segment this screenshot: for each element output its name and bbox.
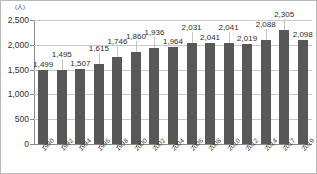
- bar-value-label: 1,499: [33, 60, 53, 69]
- label-leader-line: [136, 41, 137, 52]
- y-axis-tick-label: 2,500: [1, 15, 29, 25]
- label-leader-line: [117, 46, 118, 57]
- bar: [168, 47, 178, 144]
- bar-value-label: 1,964: [163, 37, 183, 46]
- y-axis-line: [34, 20, 35, 145]
- label-leader-line: [154, 37, 155, 48]
- bar: [112, 57, 122, 144]
- y-axis-unit-label: (人): [15, 2, 25, 11]
- y-axis-tick-label: 2,000: [1, 40, 29, 50]
- y-axis-tick-mark: [30, 20, 34, 21]
- bar: [242, 44, 252, 144]
- y-axis-tick-label: 1,500: [1, 65, 29, 75]
- y-axis-tick-mark: [30, 70, 34, 71]
- bar-value-label: 1,495: [52, 50, 72, 59]
- plot-area: 1,4991,4951,5071,6151,7461,8601,9361,964…: [34, 20, 312, 144]
- bar: [261, 40, 271, 144]
- bar: [131, 52, 141, 144]
- bar: [38, 70, 48, 144]
- y-axis-tick-mark: [30, 45, 34, 46]
- bar: [57, 70, 67, 144]
- bar-value-label: 1,746: [107, 37, 127, 46]
- bar-value-label: 2,041: [200, 33, 220, 42]
- label-leader-line: [229, 32, 230, 43]
- bar-value-label: 2,019: [237, 34, 257, 43]
- y-axis-tick-label: 0: [1, 139, 29, 149]
- y-axis-tick-mark: [30, 94, 34, 95]
- bar: [205, 43, 215, 144]
- y-axis-tick-label: 500: [1, 114, 29, 124]
- bar-value-label: 2,305: [274, 10, 294, 19]
- bar: [224, 43, 234, 144]
- bar-value-label: 1,507: [70, 59, 90, 68]
- bar: [298, 40, 308, 144]
- label-leader-line: [99, 53, 100, 64]
- bar: [94, 64, 104, 144]
- bar-value-label: 2,098: [293, 30, 313, 39]
- bar: [75, 69, 85, 144]
- bar-value-label: 1,615: [89, 44, 109, 53]
- bar-value-label: 1,860: [126, 32, 146, 41]
- label-leader-line: [284, 19, 285, 30]
- y-axis-tick-label: 1,000: [1, 89, 29, 99]
- label-leader-line: [62, 59, 63, 70]
- bar: [279, 30, 289, 144]
- y-axis-tick-mark: [30, 144, 34, 145]
- y-axis-tick-mark: [30, 119, 34, 120]
- bar: [187, 43, 197, 144]
- bar-value-label: 2,041: [219, 23, 239, 32]
- bar-value-label: 2,088: [256, 20, 276, 29]
- bar-chart: (人) 1,4991,4951,5071,6151,7461,8601,9361…: [0, 0, 317, 174]
- bar-value-label: 2,031: [182, 23, 202, 32]
- bar-value-label: 1,936: [144, 28, 164, 37]
- bar: [149, 48, 159, 144]
- label-leader-line: [192, 32, 193, 43]
- label-leader-line: [266, 29, 267, 40]
